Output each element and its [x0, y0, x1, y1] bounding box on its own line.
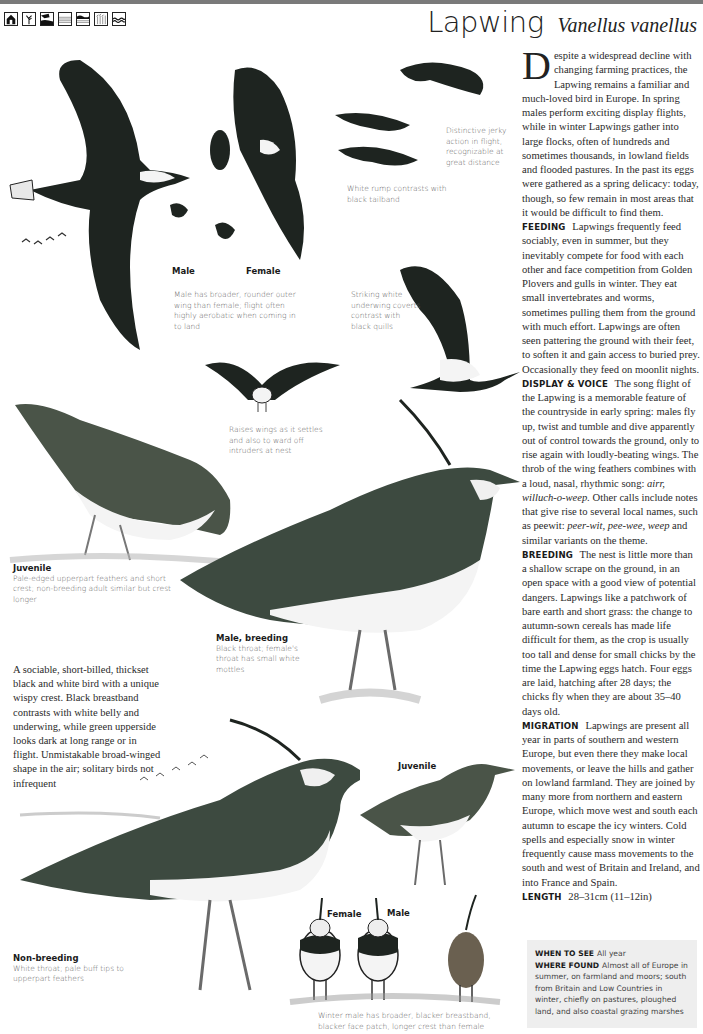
section-migration: MIGRATION Lapwings are present all year … [522, 719, 700, 890]
caption-winter: Winter male has broader, blacker breastb… [318, 1011, 498, 1032]
caption-juvenile: Juvenile Pale-edged upperpart feathers a… [13, 563, 173, 605]
caption-non-breeding: Non-breeding White throat; pale buff tip… [13, 953, 133, 985]
heading-display-voice: DISPLAY & VOICE [522, 379, 608, 389]
section-feeding: FEEDING Lapwings frequently feed sociabl… [522, 220, 700, 377]
raising-wings-illustration [205, 363, 340, 413]
caption-male-breeding-title: Male, breeding [216, 633, 306, 644]
section-length: LENGTH 28–31cm (11–12in) [522, 890, 700, 904]
label-winter-female: Female [327, 909, 362, 919]
species-text-column: Despite a widespread decline with changi… [522, 49, 700, 904]
text-length: 28–31cm (11–12in) [568, 891, 651, 902]
bird-illustrations [0, 0, 520, 1034]
flying-male-illustration [10, 60, 190, 350]
caption-juvenile-text: Pale-edged upperpart feathers and short … [13, 574, 171, 604]
caption-non-breeding-title: Non-breeding [13, 953, 133, 964]
heading-length: LENGTH [522, 892, 562, 902]
when-heading: WHEN TO SEE [535, 949, 594, 958]
text-feeding: Lapwings frequently feed sociably, even … [522, 221, 700, 375]
label-male: Male [172, 266, 195, 276]
caption-underwing: Striking white underwing coverts contras… [351, 290, 421, 332]
species-summary: A sociable, short-billed, thickset black… [13, 663, 163, 791]
caption-male-breeding: Male, breeding Black throat; female's th… [216, 633, 306, 675]
caption-white-rump: White rump contrasts with black tailband [347, 184, 447, 205]
caption-juvenile-title: Juvenile [13, 563, 173, 574]
caption-male-breeding-text: Black throat; female's throat has small … [216, 644, 300, 674]
juvenile-standing-illustration [360, 764, 515, 885]
section-display-voice: DISPLAY & VOICE The song flight of the L… [522, 377, 700, 548]
scientific-name: Vanellus vanellus [558, 14, 697, 37]
text-breeding: The nest is little more than a shallow s… [522, 549, 696, 717]
caption-raises-wings: Raises wings as it settles and also to w… [229, 425, 334, 457]
label-juvenile-standing: Juvenile [398, 761, 436, 771]
text-migration: Lapwings are present all year in parts o… [522, 720, 700, 888]
caption-non-breeding-text: White throat; pale buff tips to upperpar… [13, 964, 124, 984]
dropcap: D [522, 51, 551, 81]
juvenile-illustration [10, 404, 260, 565]
where-found: WHERE FOUNDAlmost all of Europe in summe… [535, 960, 691, 1018]
heading-migration: MIGRATION [522, 721, 579, 731]
caption-flight-jerky: Distinctive jerky action in flight, reco… [446, 126, 521, 168]
heading-feeding: FEEDING [522, 222, 566, 232]
caption-wing-shape: Male has broader, rounder outer wing tha… [174, 290, 304, 332]
label-winter-male: Male [387, 908, 410, 918]
when-text: All year [597, 949, 626, 958]
section-breeding: BREEDING The nest is little more than a … [522, 548, 700, 719]
text-calls: peer-wit, pee-wee, weep [567, 520, 669, 531]
intro-paragraph: Despite a widespread decline with changi… [522, 49, 700, 220]
label-female: Female [246, 266, 281, 276]
info-box: WHEN TO SEEAll year WHERE FOUNDAlmost al… [527, 940, 697, 1028]
text-display-1: The song flight of the Lapwing is a memo… [522, 378, 699, 489]
where-heading: WHERE FOUND [535, 961, 599, 970]
when-to-see: WHEN TO SEEAll year [535, 948, 691, 960]
heading-breeding: BREEDING [522, 550, 573, 560]
